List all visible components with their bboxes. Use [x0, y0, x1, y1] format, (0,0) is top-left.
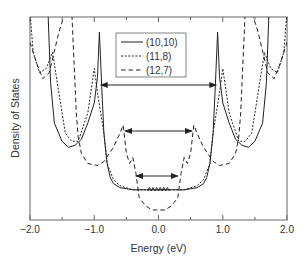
x-tick-label: 0.0: [152, 224, 166, 235]
legend-label-12-7: (12,7): [146, 65, 172, 76]
gap-arrows: [101, 85, 217, 176]
x-tick-label: 1.0: [216, 224, 230, 235]
x-tick-label: −2.0: [20, 224, 40, 235]
x-tick-label: −1.0: [84, 224, 104, 235]
x-tick-labels: −2.0−1.00.01.02.0: [20, 224, 294, 235]
legend: (10,10) (11,8) (12,7): [116, 33, 186, 77]
legend-label-10-10: (10,10): [146, 37, 178, 48]
x-axis-label: Energy (eV): [130, 242, 186, 254]
x-tick-label: 2.0: [280, 224, 294, 235]
dos-chart: (10,10) (11,8) (12,7) −2.0−1.00.01.02.0 …: [0, 0, 308, 262]
y-axis-label: Density of States: [9, 78, 21, 157]
legend-label-11-8: (11,8): [146, 51, 171, 62]
noise-wiggle: [148, 187, 170, 191]
